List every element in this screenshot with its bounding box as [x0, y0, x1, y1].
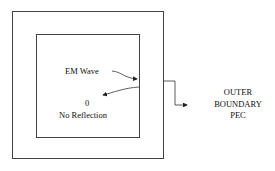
no-reflection-label: No Reflection [59, 110, 107, 120]
outer-boundary-label: OUTER BOUNDARY PEC [198, 87, 275, 122]
boundary-label-line: OUTER [198, 87, 275, 99]
boundary-label-line: PEC [198, 110, 275, 122]
inner-domain-box [37, 35, 140, 138]
outer-boundary-box [13, 12, 164, 159]
em-wave-label: EM Wave [65, 66, 99, 76]
reflected-wave-arrow [103, 87, 139, 95]
diagram-canvas [0, 0, 275, 171]
boundary-label-line: BOUNDARY [198, 99, 275, 111]
incident-wave-arrow [112, 71, 137, 79]
boundary-pointer-arrow [163, 81, 187, 105]
reflection-value-label: 0 [85, 98, 89, 108]
